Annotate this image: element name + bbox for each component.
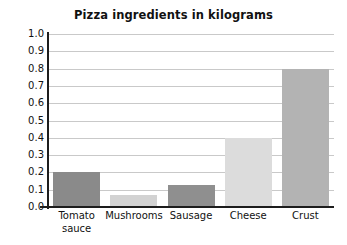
x-axis-tick-label: Cheese bbox=[220, 210, 277, 223]
plot-area bbox=[48, 34, 334, 207]
x-axis-tick-label-line: sauce bbox=[48, 223, 105, 236]
y-axis-tick-label: 0.2 bbox=[2, 167, 44, 177]
y-axis-line bbox=[47, 32, 49, 209]
x-axis-category-labels: TomatosauceMushroomsSausageCheeseCrust bbox=[48, 210, 334, 244]
bar-chart: Pizza ingredients in kilograms 1.00.90.8… bbox=[0, 0, 347, 245]
y-axis-tick-label: 0.0 bbox=[2, 202, 44, 212]
x-axis-tick-label: Tomatosauce bbox=[48, 210, 105, 235]
bar bbox=[225, 138, 272, 207]
x-axis-line bbox=[40, 206, 334, 208]
x-axis-tick-label-line: Crust bbox=[277, 210, 334, 223]
y-axis-tick-label: 0.7 bbox=[2, 81, 44, 91]
gridline bbox=[48, 51, 334, 52]
bar bbox=[168, 185, 215, 207]
bar bbox=[53, 172, 100, 207]
chart-title: Pizza ingredients in kilograms bbox=[0, 8, 347, 22]
y-axis-tick-labels: 1.00.90.80.70.60.50.40.30.20.10.0 bbox=[0, 0, 44, 245]
x-axis-tick-label-line: Sausage bbox=[162, 210, 219, 223]
y-axis-tick-label: 0.6 bbox=[2, 98, 44, 108]
x-axis-tick-label: Mushrooms bbox=[105, 210, 162, 223]
gridline bbox=[48, 34, 334, 35]
bar bbox=[282, 69, 329, 207]
y-axis-tick-label: 0.3 bbox=[2, 150, 44, 160]
x-axis-tick-label-line: Mushrooms bbox=[105, 210, 162, 223]
y-axis-tick-label: 0.4 bbox=[2, 133, 44, 143]
x-axis-tick-label-line: Tomato bbox=[48, 210, 105, 223]
x-axis-tick-label: Crust bbox=[277, 210, 334, 223]
y-axis-tick-label: 1.0 bbox=[2, 29, 44, 39]
y-axis-tick-label: 0.1 bbox=[2, 185, 44, 195]
y-axis-tick-label: 0.8 bbox=[2, 64, 44, 74]
x-axis-tick-label-line: Cheese bbox=[220, 210, 277, 223]
y-axis-tick-label: 0.5 bbox=[2, 116, 44, 126]
x-axis-tick-label: Sausage bbox=[162, 210, 219, 223]
y-axis-tick-label: 0.9 bbox=[2, 46, 44, 56]
